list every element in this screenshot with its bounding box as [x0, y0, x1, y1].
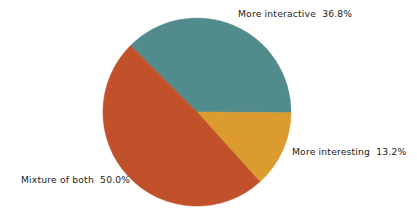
pie-label-more-interactive: More interactive 36.8% — [238, 9, 352, 19]
pie-label-mixture-of-both: Mixture of both 50.0% — [21, 175, 130, 185]
pie-slice-group — [103, 18, 291, 206]
pie-label-more-interesting: More interesting 13.2% — [292, 147, 406, 157]
pie-chart: More interactive 36.8% More interesting … — [0, 0, 417, 213]
